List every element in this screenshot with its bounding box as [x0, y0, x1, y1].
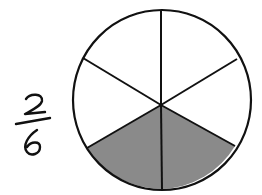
shaded-sector-bottom-right [161, 105, 235, 189]
spoke-upper-right [161, 59, 237, 105]
numerator-two [25, 95, 45, 114]
fraction-illustration: 2/6 [0, 0, 262, 195]
spoke-upper-left [83, 58, 161, 105]
fraction-label: 2/6 [0, 0, 50, 154]
shaded-sector-bottom-left [87, 105, 162, 189]
fraction-bar [16, 118, 50, 124]
denominator-six [25, 130, 40, 154]
spoke-bottom [161, 105, 162, 190]
pie-circle [73, 10, 251, 190]
